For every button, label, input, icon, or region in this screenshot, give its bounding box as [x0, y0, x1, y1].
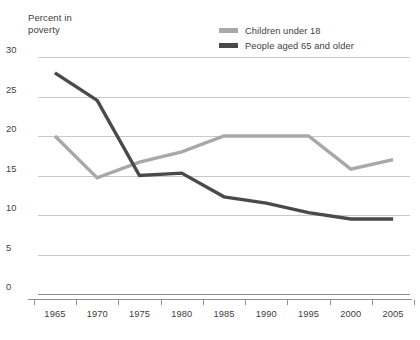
y-axis-tick-label: 0: [6, 282, 32, 292]
x-axis-tick-label: 1990: [256, 309, 277, 319]
x-axis-tick-label: 1995: [298, 309, 319, 319]
x-axis-tick-mark: [287, 300, 288, 305]
gridline: [38, 215, 410, 216]
x-axis-tick-mark: [414, 300, 415, 305]
x-axis-tick-label: 2000: [340, 309, 361, 319]
x-axis-tick-mark: [118, 300, 119, 305]
x-axis-line: [28, 299, 412, 300]
legend-item: Children under 18: [219, 24, 354, 37]
x-axis-tick-mark: [34, 300, 35, 305]
y-axis-tick-label: 20: [6, 124, 32, 134]
legend-item: People aged 65 and older: [219, 39, 354, 52]
gridline: [38, 97, 410, 98]
line-swatch-icon: [219, 43, 238, 48]
y-axis-title: Percent in poverty: [28, 12, 72, 36]
x-axis-tick-label: 1975: [129, 309, 150, 319]
plot-area: [38, 57, 410, 294]
legend-item-label: People aged 65 and older: [245, 41, 354, 51]
x-axis-tick-label: 1970: [87, 309, 108, 319]
x-axis-tick-mark: [203, 300, 204, 305]
y-axis-tick-label: 5: [6, 243, 32, 253]
gridline: [38, 57, 410, 58]
gridline: [38, 176, 410, 177]
gridline: [38, 255, 410, 256]
y-axis-tick-label: 10: [6, 203, 32, 213]
y-axis-tick-label: 30: [6, 45, 32, 55]
x-axis-tick-mark: [330, 300, 331, 305]
line-swatch-icon: [219, 28, 238, 33]
x-axis-tick-mark: [161, 300, 162, 305]
x-axis-tick-mark: [245, 300, 246, 305]
x-axis-tick-label: 1965: [44, 309, 65, 319]
y-axis-tick-label: 15: [6, 164, 32, 174]
gridline: [38, 136, 410, 137]
chart-figure: Percent in poverty Children under 18 Peo…: [0, 0, 420, 340]
x-axis-tick-label: 2005: [383, 309, 404, 319]
x-axis-tick-mark: [76, 300, 77, 305]
legend-item-label: Children under 18: [245, 26, 321, 36]
x-axis-tick-label: 1985: [213, 309, 234, 319]
legend: Children under 18 People aged 65 and old…: [219, 24, 354, 54]
x-axis-tick-mark: [372, 300, 373, 305]
y-axis-tick-label: 25: [6, 85, 32, 95]
gridline: [38, 294, 410, 295]
x-axis-tick-label: 1980: [171, 309, 192, 319]
